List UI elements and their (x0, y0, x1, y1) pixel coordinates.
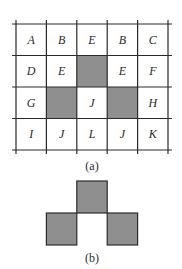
cell-letter: G (27, 96, 36, 110)
shaded-cell (46, 87, 76, 119)
shaded-square (107, 213, 137, 245)
cell-letter: F (148, 64, 157, 78)
cell-letter: E (57, 64, 66, 78)
figure-b-caption: (b) (85, 251, 99, 265)
cell-letter: E (87, 33, 96, 47)
figure-b-shape (46, 181, 137, 245)
cell-letter: C (149, 33, 158, 47)
shaded-square (77, 181, 107, 213)
cell-letter: K (148, 127, 158, 141)
cell-letter: D (26, 64, 36, 78)
diagram-canvas: ABEBCDEEFGJHIJLJK (a) (b) (0, 0, 182, 269)
shaded-cell (77, 56, 107, 88)
figure-a-caption: (a) (85, 159, 98, 173)
cell-letter: J (89, 96, 95, 110)
cell-letter: B (58, 33, 66, 47)
shaded-square (46, 213, 76, 245)
shaded-cell (107, 87, 137, 119)
cell-letter: B (119, 33, 127, 47)
figure-a-grid: ABEBCDEEFGJHIJLJK (12, 20, 172, 154)
cell-letter: A (27, 33, 36, 47)
cell-letter: I (28, 127, 34, 141)
cell-letter: L (88, 127, 96, 141)
cell-letter: J (59, 127, 65, 141)
cell-letter: E (118, 64, 127, 78)
cell-letter: H (147, 96, 158, 110)
cell-letter: J (120, 127, 126, 141)
